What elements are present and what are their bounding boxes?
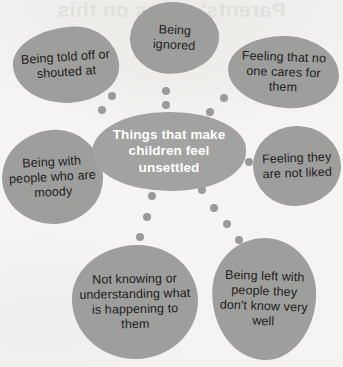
connector-dot (143, 213, 151, 221)
connector-dot (98, 106, 106, 114)
bubble-label: Feeling that no one cares for them (233, 48, 334, 96)
hub-label: Things that make children feel unsettled (100, 127, 238, 177)
connector-dot (206, 108, 214, 116)
bubble-label: Not knowing or understanding what is hap… (77, 271, 192, 333)
connector-dot (148, 192, 156, 200)
bubble-ignored[interactable]: Being ignored (128, 0, 221, 76)
bubble-moody-people[interactable]: Being with people who are moody (0, 127, 105, 226)
bubble-not-liked[interactable]: Feeling they are not liked (252, 124, 343, 207)
bubble-label: Being with people who are moody (7, 152, 98, 202)
bubble-left-with-strangers[interactable]: Being left with people they don't know v… (210, 236, 318, 362)
bubble-told-off[interactable]: Being told off or shouted at (10, 23, 121, 106)
mind-map-canvas: Parents' views on this Being told off or… (0, 0, 343, 367)
connector-dot (162, 101, 170, 109)
bubble-not-knowing[interactable]: Not knowing or understanding what is hap… (71, 244, 199, 360)
connector-dot (245, 158, 253, 166)
connector-dot (108, 92, 116, 100)
bubble-label: Feeling they are not liked (258, 150, 335, 183)
bubble-no-one-cares[interactable]: Feeling that no one cares for them (227, 34, 340, 110)
connector-dot (223, 220, 231, 228)
hub-bubble[interactable]: Things that make children feel unsettled (92, 112, 246, 191)
connector-dot (162, 87, 170, 95)
bubble-label: Being ignored (135, 21, 213, 55)
bubble-label: Being left with people they don't know v… (217, 267, 311, 330)
connector-dot (136, 233, 144, 241)
connector-dot (210, 204, 218, 212)
connector-dot (220, 94, 228, 102)
bubble-label: Being told off or shouted at (18, 47, 114, 83)
